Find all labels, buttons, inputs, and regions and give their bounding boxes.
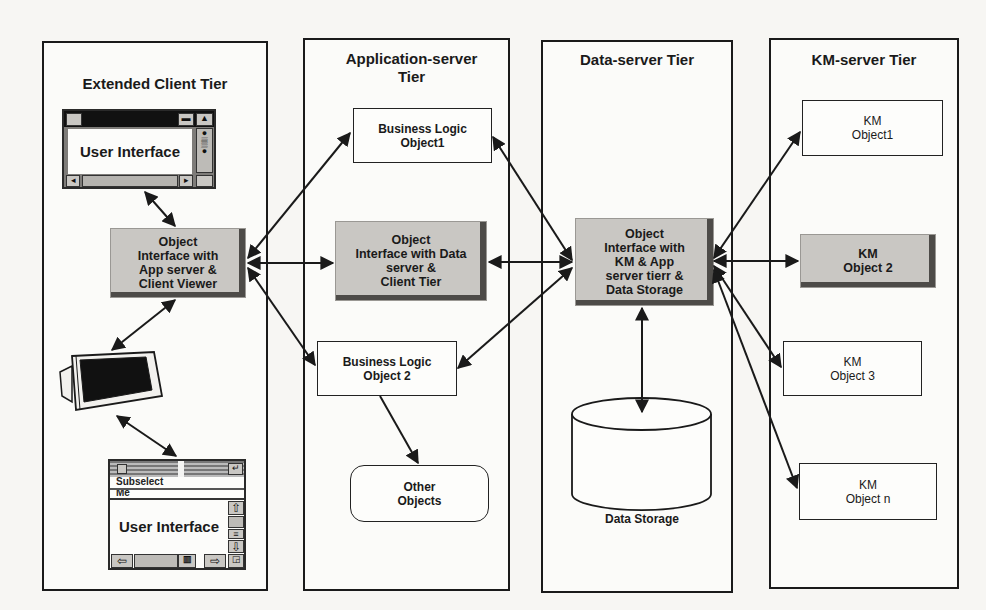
app-object-interface: Object Interface with Data server & Clie… (335, 221, 487, 301)
km-object-3: KM Object 3 (783, 341, 922, 396)
data-storage-label: Data Storage (572, 512, 712, 526)
scroll-hbar-icon (134, 554, 178, 568)
other-objects: Other Objects (350, 465, 489, 522)
close-box-icon (117, 464, 127, 474)
resize-icon (196, 175, 213, 187)
tier-title-client: Extended Client Tier (44, 75, 266, 93)
menu-icon (66, 113, 82, 126)
scroll-left-icon: ◂ (66, 175, 80, 187)
title-highlight (178, 461, 184, 477)
km-object-n: KM Object n (799, 463, 937, 520)
scroll-right-icon: ⇨ (204, 554, 226, 568)
client-object-interface: Object Interface with App server & Clien… (110, 228, 246, 298)
tier-panel-data: Data-server Tier (541, 40, 733, 593)
scroll-down-icon: ⇩ (228, 540, 244, 553)
scroll-track-icon: ●▒● (196, 128, 213, 173)
title-bar (110, 461, 244, 477)
tier-title-data: Data-server Tier (543, 51, 731, 69)
business-logic-object-2: Business Logic Object 2 (317, 341, 457, 396)
scroll-right-icon: ▸ (179, 175, 193, 187)
menu-separator (110, 498, 244, 500)
user-interface-window-bottom: ↵ Subselect Me User Interface ⇧ ≡ ⇩ ⇦ ▥ … (108, 459, 246, 570)
data-object-interface: Object Interface with KM & App server ti… (575, 218, 714, 306)
km-object-1: KM Object1 (802, 100, 943, 156)
menu-separator (110, 488, 244, 490)
scroll-thumb-icon (228, 516, 244, 528)
km-object-2: KM Object 2 (800, 234, 936, 288)
ui-label-top: User Interface (68, 129, 192, 174)
minimize-icon: ▬ (178, 113, 194, 126)
resize-icon: ◲ (228, 554, 244, 568)
zoom-box-icon: ↵ (228, 463, 243, 475)
scroll-up-icon: ▲ (196, 113, 213, 126)
scroll-lines-icon: ≡ (228, 529, 244, 539)
menu-text-subselect: Subselect Me (116, 476, 163, 498)
tier-title-app: Application-server Tier (315, 50, 508, 86)
scroll-hbar-icon (82, 175, 178, 187)
tier-title-km: KM-server Tier (771, 51, 957, 69)
scroll-thumb-icon: ▥ (178, 554, 196, 568)
business-logic-object-1: Business Logic Object1 (353, 108, 492, 163)
ui-label-bottom: User Interface (112, 501, 226, 551)
scroll-left-icon: ⇦ (111, 554, 133, 568)
user-interface-window-top: ▬ ▲ User Interface ●▒● ◂ ▸ (62, 109, 216, 189)
scroll-up-icon: ⇧ (228, 501, 244, 515)
